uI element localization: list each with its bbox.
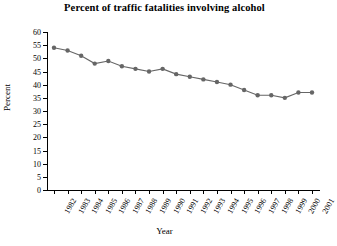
y-tick <box>43 85 47 86</box>
x-tick-label: 1992 <box>198 196 214 215</box>
x-tick <box>312 190 313 194</box>
data-point <box>255 93 259 97</box>
y-tick-label: 30 <box>33 107 41 116</box>
x-tick <box>81 190 82 194</box>
y-tick <box>43 58 47 59</box>
y-tick <box>43 151 47 152</box>
x-tick-label: 1995 <box>239 196 255 215</box>
data-point <box>174 72 178 76</box>
series-markers <box>52 46 314 100</box>
x-axis-line <box>47 190 320 191</box>
y-tick-label: 35 <box>33 93 41 102</box>
data-point <box>52 46 56 50</box>
y-tick <box>43 190 47 191</box>
x-tick-label: 1994 <box>225 196 241 215</box>
data-point <box>120 64 124 68</box>
plot-area: 051015202530354045505560 198219831984198… <box>47 32 319 190</box>
x-tick-label: 1985 <box>103 196 119 215</box>
x-tick <box>149 190 150 194</box>
x-tick <box>176 190 177 194</box>
data-point <box>93 61 97 65</box>
y-tick-label: 50 <box>33 54 41 63</box>
y-tick-label: 10 <box>33 159 41 168</box>
y-tick <box>43 72 47 73</box>
data-point <box>201 77 205 81</box>
y-tick <box>43 98 47 99</box>
x-tick <box>231 190 232 194</box>
y-tick-label: 15 <box>33 146 41 155</box>
x-tick <box>190 190 191 194</box>
x-tick-label: 1987 <box>130 196 146 215</box>
data-point <box>296 90 300 94</box>
y-tick-label: 20 <box>33 133 41 142</box>
x-tick <box>68 190 69 194</box>
x-tick-label: 1982 <box>63 196 79 215</box>
y-tick-label: 45 <box>33 67 41 76</box>
data-point <box>147 69 151 73</box>
data-point <box>133 67 137 71</box>
x-tick <box>271 190 272 194</box>
y-tick-label: 25 <box>33 120 41 129</box>
x-tick <box>258 190 259 194</box>
y-tick <box>43 32 47 33</box>
y-tick <box>43 45 47 46</box>
y-tick-label: 60 <box>33 28 41 37</box>
data-point <box>79 54 83 58</box>
data-point <box>310 90 314 94</box>
x-tick-label: 1998 <box>280 196 296 215</box>
x-tick-label: 1991 <box>185 196 201 215</box>
y-tick-label: 0 <box>37 186 41 195</box>
y-tick-label: 55 <box>33 41 41 50</box>
x-tick <box>163 190 164 194</box>
x-tick-label: 1993 <box>212 196 228 215</box>
y-tick-label: 40 <box>33 80 41 89</box>
chart-title: Percent of traffic fatalities involving … <box>0 2 329 13</box>
x-tick-label: 1997 <box>266 196 282 215</box>
data-point <box>269 93 273 97</box>
x-tick-label: 2001 <box>321 196 337 215</box>
x-axis-title: Year <box>0 226 329 236</box>
data-point <box>188 75 192 79</box>
x-tick-label: 2000 <box>307 196 323 215</box>
y-tick <box>43 124 47 125</box>
x-tick-label: 1990 <box>171 196 187 215</box>
x-tick-label: 1999 <box>293 196 309 215</box>
x-tick <box>54 190 55 194</box>
data-point <box>283 96 287 100</box>
x-tick <box>285 190 286 194</box>
x-tick-label: 1984 <box>90 196 106 215</box>
x-tick <box>108 190 109 194</box>
y-tick <box>43 177 47 178</box>
y-axis-title: Percent <box>2 84 12 111</box>
data-point <box>106 59 110 63</box>
data-point <box>215 80 219 84</box>
series-line <box>54 48 312 98</box>
y-tick <box>43 137 47 138</box>
x-tick <box>244 190 245 194</box>
data-point <box>65 48 69 52</box>
x-tick <box>217 190 218 194</box>
y-tick <box>43 164 47 165</box>
y-tick <box>43 111 47 112</box>
data-point <box>160 67 164 71</box>
x-tick-label: 1983 <box>76 196 92 215</box>
x-tick-label: 1989 <box>158 196 174 215</box>
data-point <box>242 88 246 92</box>
x-tick <box>122 190 123 194</box>
x-tick <box>135 190 136 194</box>
data-series-svg <box>47 32 319 190</box>
x-tick <box>203 190 204 194</box>
x-tick-label: 1986 <box>117 196 133 215</box>
data-point <box>228 82 232 86</box>
y-tick-label: 5 <box>37 172 41 181</box>
x-tick <box>95 190 96 194</box>
x-tick <box>298 190 299 194</box>
x-tick-label: 1988 <box>144 196 160 215</box>
x-tick-label: 1996 <box>253 196 269 215</box>
